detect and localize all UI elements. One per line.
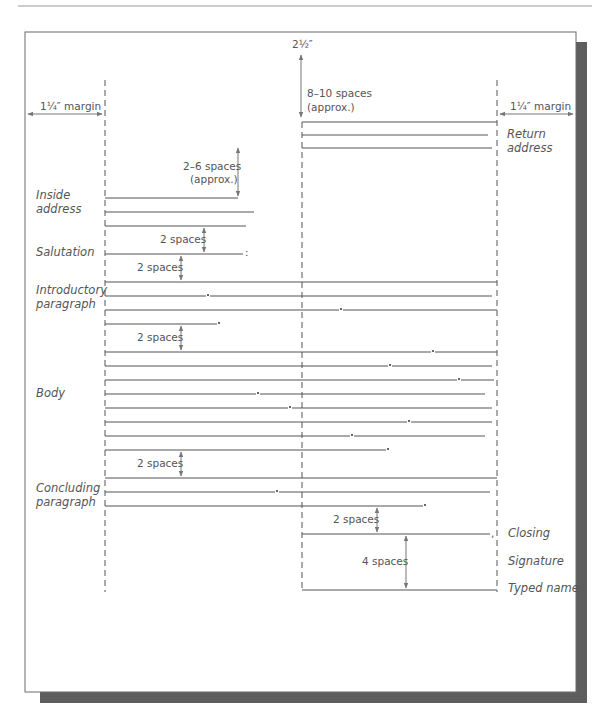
top-spacing-label-1: 8–10 spaces [307,87,372,99]
left-margin-label: 1¼″ margin [40,100,101,112]
period-mark [276,490,278,492]
introductory-label-2: paragraph [35,297,96,311]
inside-spacing-label-2: (approx.) [190,173,238,185]
closing-comma: , [491,527,494,539]
closing-spacing-label: 2 spaces [333,513,379,525]
period-mark [424,504,426,506]
period-mark [218,322,220,324]
salutation-spacing-label: 2 spaces [160,233,206,245]
concluding-label-2: paragraph [35,495,96,509]
return-address-label-2: address [507,141,552,155]
period-mark [257,392,259,394]
period-mark [408,420,410,422]
inside-address-label-1: Inside [36,188,70,202]
salutation-label: Salutation [36,245,94,259]
introductory-label-1: Introductory [36,283,107,297]
period-mark [387,448,389,450]
letter-page [25,32,576,692]
concluding-spacing-label: 2 spaces [137,457,183,469]
period-mark [351,434,353,436]
page-shadow-right [576,42,587,703]
period-mark [432,350,434,352]
right-margin-label: 1¼″ margin [510,100,571,112]
typed-name-label: Typed name [508,581,579,595]
signature-label: Signature [508,554,564,568]
signature-spacing-label: 4 spaces [362,555,408,567]
period-mark [458,378,460,380]
top-margin-label: 2½″ [292,38,313,50]
inside-spacing-label-1: 2–6 spaces [183,160,241,172]
top-spacing-label-2: (approx.) [307,101,355,113]
return-address-label-1: Return [507,127,546,141]
concluding-label-1: Concluding [36,481,100,495]
closing-label: Closing [508,526,550,540]
body-spacing-label: 2 spaces [137,331,183,343]
period-mark [340,308,342,310]
body-label: Body [36,386,65,400]
period-mark [389,364,391,366]
intro-spacing-label: 2 spaces [137,261,183,273]
period-mark [289,406,291,408]
salutation-colon: : [245,246,249,258]
period-mark [207,294,209,296]
page-shadow-bottom [40,692,587,703]
business-letter-format-diagram: 2½″ 8–10 spaces (approx.) 1¼″ margin 1¼″… [0,0,605,719]
inside-address-label-2: address [36,202,81,216]
